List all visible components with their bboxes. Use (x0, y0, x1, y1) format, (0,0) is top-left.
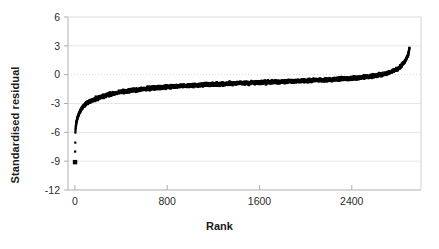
y-tick-label: -9 (51, 155, 60, 167)
outlier-point (73, 160, 77, 164)
y-tick-label: -12 (45, 184, 60, 196)
y-tick-label: -6 (51, 126, 60, 138)
x-tick-label: 0 (72, 195, 78, 207)
y-tick-label: 3 (54, 40, 60, 52)
scatter-chart-figure: Standardised residual Rank 630-3-6-9-120… (0, 0, 439, 249)
plot-canvas: 630-3-6-9-12080016002400 (0, 0, 439, 249)
x-tick-label: 800 (158, 195, 176, 207)
y-tick-label: 6 (54, 11, 60, 23)
x-tick-label: 2400 (340, 195, 364, 207)
y-tick-label: 0 (54, 68, 60, 80)
y-tick-label: -3 (51, 97, 60, 109)
data-point-group (74, 47, 411, 164)
x-tick-label: 1600 (248, 195, 272, 207)
